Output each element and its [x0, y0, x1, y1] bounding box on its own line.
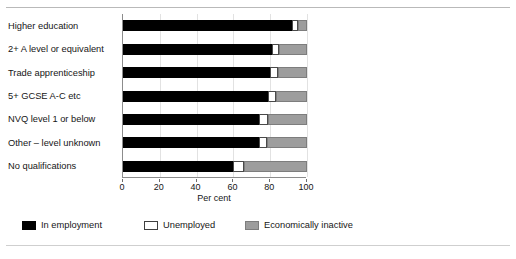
category-label: No qualifications: [8, 160, 120, 172]
bar-segment-inactive: [279, 44, 307, 55]
x-tick-label: 20: [154, 182, 164, 193]
chart-figure: Higher education2+ A level or equivalent…: [0, 0, 516, 259]
legend-swatch-inactive-icon: [245, 221, 259, 230]
legend-item[interactable]: Economically inactive: [245, 219, 353, 231]
x-tick-label: 80: [264, 182, 274, 193]
bar-segment-employment: [123, 91, 268, 102]
category-label: Higher education: [8, 20, 120, 32]
bar-segment-inactive: [267, 137, 307, 148]
legend-label: Unemployed: [163, 219, 215, 231]
bar-segment-unemployed: [259, 114, 268, 125]
plot-area: [122, 14, 306, 178]
category-label: Trade apprenticeship: [8, 67, 120, 79]
bar-segment-unemployed: [259, 137, 266, 148]
bar-segment-unemployed: [272, 44, 279, 55]
bar-row: [123, 44, 307, 55]
bottom-divider: [6, 245, 510, 246]
bar-segment-inactive: [298, 20, 307, 31]
legend-label: In employment: [41, 219, 102, 231]
legend-item[interactable]: Unemployed: [144, 219, 215, 231]
bar-row: [123, 114, 307, 125]
bar-row: [123, 161, 307, 172]
bar-segment-unemployed: [268, 91, 275, 102]
bar-segment-unemployed: [233, 161, 244, 172]
category-axis-labels: Higher education2+ A level or equivalent…: [8, 14, 120, 178]
legend-item[interactable]: In employment: [22, 219, 102, 231]
bar-segment-inactive: [268, 114, 307, 125]
bar-row: [123, 137, 307, 148]
bar-row: [123, 20, 307, 31]
category-label: Other – level unknown: [8, 137, 120, 149]
bar-segment-employment: [123, 67, 270, 78]
legend-swatch-unemployed-icon: [144, 221, 158, 230]
x-axis-title: Per cent: [122, 193, 306, 204]
legend-swatch-employment-icon: [22, 221, 36, 230]
x-axis-ticks: 020406080100: [122, 179, 312, 193]
x-tick-label: 100: [298, 182, 313, 193]
category-label: 5+ GCSE A-C etc: [8, 90, 120, 102]
bar-segment-employment: [123, 137, 259, 148]
bar-segment-employment: [123, 20, 292, 31]
top-divider: [6, 7, 510, 8]
bar-segment-employment: [123, 44, 272, 55]
x-tick-label: 40: [191, 182, 201, 193]
x-tick-label: 60: [227, 182, 237, 193]
bar-row: [123, 91, 307, 102]
category-label: 2+ A level or equivalent: [8, 43, 120, 55]
bar-segment-inactive: [278, 67, 307, 78]
bar-segment-inactive: [244, 161, 307, 172]
chart-legend: In employmentUnemployedEconomically inac…: [22, 219, 322, 233]
x-tick-label: 0: [119, 182, 124, 193]
legend-label: Economically inactive: [264, 219, 353, 231]
bar-segment-inactive: [276, 91, 307, 102]
bar-row: [123, 67, 307, 78]
bar-segment-unemployed: [270, 67, 277, 78]
bar-segment-employment: [123, 161, 233, 172]
gridline: [307, 14, 308, 177]
bar-segment-employment: [123, 114, 259, 125]
category-label: NVQ level 1 or below: [8, 113, 120, 125]
